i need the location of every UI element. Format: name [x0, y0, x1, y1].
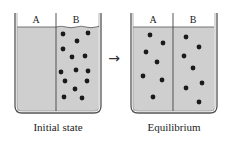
solute-particle [141, 74, 146, 79]
solute-particle [61, 32, 66, 37]
solute-particle [182, 54, 187, 59]
solute-particle [148, 33, 153, 38]
solute-particle [74, 68, 79, 73]
solute-particle [63, 79, 68, 84]
compartment-label-b-equilibrium: B [190, 14, 197, 25]
liquid-initial [17, 27, 98, 111]
solute-particle [70, 55, 75, 60]
solute-particle [59, 70, 64, 75]
diffusion-diagram: A B → A B Initial state Equilibrium [0, 0, 227, 141]
solute-particle [184, 35, 189, 40]
solute-particle [85, 79, 90, 84]
solute-particle [83, 54, 88, 59]
solute-particle [86, 69, 91, 74]
liquid-equilibrium [133, 27, 214, 111]
solute-particle [160, 78, 165, 83]
caption-initial-state: Initial state [33, 121, 82, 133]
solute-particle [75, 39, 80, 44]
solute-particle [197, 45, 202, 50]
solute-particle [62, 95, 67, 100]
solute-particle [73, 87, 78, 92]
solute-particle [155, 60, 160, 65]
solute-particle [61, 47, 66, 52]
process-arrow: → [108, 50, 120, 66]
compartment-label-a-initial: A [32, 14, 40, 25]
solute-particle [86, 31, 91, 36]
solute-particle [151, 95, 156, 100]
solute-particle [191, 66, 196, 71]
beaker-equilibrium: A B [131, 13, 217, 113]
solute-particle [80, 96, 85, 101]
beaker-initial: A B [15, 13, 101, 113]
solute-particle [144, 50, 149, 55]
caption-equilibrium: Equilibrium [147, 121, 201, 133]
compartment-label-b-initial: B [73, 14, 80, 25]
solute-particle [184, 86, 189, 91]
solute-particle [161, 41, 166, 46]
compartment-label-a-equilibrium: A [149, 14, 157, 25]
solute-particle [200, 81, 205, 86]
solute-particle [197, 100, 202, 105]
